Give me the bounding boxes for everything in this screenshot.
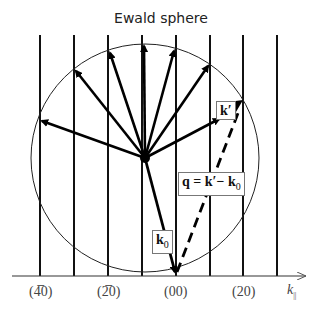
scattered-wavevectors (42, 46, 219, 158)
k0-label: k0 (152, 230, 173, 254)
tick-label-m40: (4̅0) (29, 284, 52, 300)
q-equation-label: q = k′− k0 (178, 172, 245, 196)
tick-label-m20: (2̅0) (97, 284, 120, 300)
k-prime-label: k′ (216, 101, 236, 120)
k0-vector (145, 158, 175, 272)
axis-label-k-parallel: k|| (287, 282, 296, 300)
tick-label-20: (20) (232, 284, 255, 300)
ewald-diagram (0, 0, 322, 313)
tick-label-00: (00) (164, 284, 187, 300)
